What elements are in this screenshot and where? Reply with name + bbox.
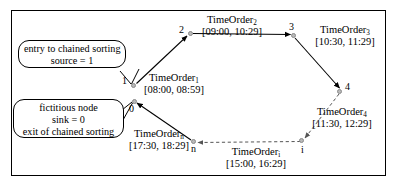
edge-label-name: TimeOrderi (210, 146, 302, 158)
node-dot-i (299, 138, 304, 143)
node-label-0: 0 (129, 104, 134, 115)
node-dot-3 (291, 33, 296, 38)
edge-label-timeorder-i: TimeOrderi [15:00, 16:29] (210, 146, 302, 170)
figure-root: 1 0 2 3 4 i n TimeOrder1 [08:00, 08:59] … (0, 0, 398, 183)
edge-label-name: TimeOrder3 (299, 24, 391, 36)
callout-entry: entry to chained sorting source = 1 (18, 40, 126, 68)
edge-label-interval: [11:30, 12:29] (296, 118, 388, 130)
edge-label-timeorder-3: TimeOrder3 [10:30, 11:29] (299, 24, 391, 48)
node-dot-4 (337, 89, 342, 94)
edge-label-interval: [09:00, 10:29] (186, 26, 278, 38)
edge-label-interval: [17:30, 18:29] (113, 140, 205, 152)
callout-exit-line1: fictitious node (19, 102, 118, 114)
edge-label-name: TimeOrder4 (296, 106, 388, 118)
edge-label-name: TimeOrder1 (130, 72, 218, 84)
edge-label-name: TimeOrder2 (186, 14, 278, 26)
callout-entry-line1: entry to chained sorting (24, 43, 120, 55)
callout-exit-line3: exit of chained sorting (19, 126, 118, 138)
node-label-4: 4 (345, 82, 350, 93)
edge-label-interval: [08:00, 08:59] (130, 84, 218, 96)
edge-label-timeorder-2: TimeOrder2 [09:00, 10:29] (186, 14, 278, 38)
edge-label-timeorder-1: TimeOrder1 [08:00, 08:59] (130, 72, 218, 96)
edge-i-to-n-dashed (198, 142, 301, 143)
node-label-1: 1 (122, 76, 127, 87)
callout-exit-line2: sink = 0 (19, 114, 118, 126)
node-label-3: 3 (289, 22, 294, 33)
edge-label-timeorder-n: TimeOrdern [17:30, 18:29] (113, 128, 205, 152)
edge-label-interval: [10:30, 11:29] (299, 36, 391, 48)
edge-label-interval: [15:00, 16:29] (210, 158, 302, 170)
callout-entry-line2: source = 1 (24, 55, 120, 67)
edge-label-timeorder-4: TimeOrder4 [11:30, 12:29] (296, 106, 388, 130)
callout-exit: fictitious node sink = 0 exit of chained… (13, 99, 124, 138)
edge-label-name: TimeOrdern (113, 128, 205, 140)
node-label-2: 2 (179, 25, 184, 36)
